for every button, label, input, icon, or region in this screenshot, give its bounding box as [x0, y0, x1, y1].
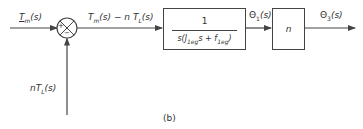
figure-caption: (b)	[163, 113, 176, 123]
theta3-signal-label: Θ3(s)	[320, 10, 343, 22]
minus-sign: −	[64, 29, 70, 37]
plant-transfer-block: 1 s(J1egs + f1eg)	[163, 8, 246, 50]
gear-ratio-block: n	[272, 8, 305, 50]
fraction-bar	[172, 30, 237, 31]
plus-sign: +	[58, 22, 64, 30]
gear-ratio-value: n	[273, 24, 304, 34]
plant-denominator: s(J1egs + f1eg)	[164, 34, 245, 45]
input-signal-label: Tm(s)	[19, 12, 42, 24]
theta1-signal-label: Θ1(s)	[249, 10, 272, 22]
error-signal-label: Tm(s) − n TL(s)	[88, 12, 153, 24]
disturbance-signal-label: nTL(s)	[30, 83, 56, 95]
plant-numerator: 1	[164, 16, 245, 26]
